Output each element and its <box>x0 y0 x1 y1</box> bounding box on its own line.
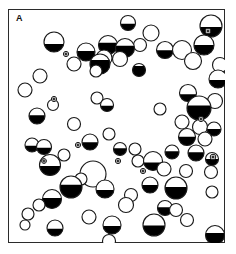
grain-circle <box>179 129 196 146</box>
crossed-circle-marker <box>51 96 56 101</box>
grain-circle <box>91 92 103 104</box>
grain-circle <box>158 201 173 216</box>
grain-circle <box>134 39 147 52</box>
grain-circle <box>175 115 189 129</box>
grain-circle <box>20 220 30 230</box>
grain-circle <box>44 32 64 52</box>
figure-panel-a: A <box>0 0 236 254</box>
crossed-circle-marker <box>205 28 211 34</box>
grain-circle <box>194 35 214 55</box>
grain-circle <box>68 118 81 131</box>
grain-circle <box>205 166 218 179</box>
grain-circle <box>82 210 96 224</box>
crossed-circles-layer <box>41 28 215 174</box>
grain-circle <box>121 16 136 31</box>
grain-circle <box>96 180 114 198</box>
grain-circle <box>209 70 225 88</box>
grain-circle <box>198 132 212 146</box>
grain-circle <box>173 41 192 60</box>
grain-circle <box>90 54 110 74</box>
grain-circle <box>157 42 174 59</box>
grain-circle <box>33 69 47 83</box>
grain-circle <box>154 103 166 115</box>
grain-circle <box>47 220 63 236</box>
grain-circle <box>125 189 138 202</box>
grain-circle <box>67 57 81 71</box>
grain-circle <box>96 50 112 66</box>
grain-circle <box>75 173 87 185</box>
grain-circle <box>132 155 144 167</box>
grain-circle <box>200 15 222 37</box>
grain-circle <box>103 216 121 234</box>
grain-circle <box>181 214 194 227</box>
grain-circle <box>206 186 218 198</box>
crossed-circle-marker <box>140 168 145 173</box>
grain-circle <box>185 53 202 70</box>
grain-circle <box>116 39 135 58</box>
grain-circle <box>40 155 61 176</box>
grain-circle <box>170 204 183 217</box>
grain-circle <box>144 152 163 171</box>
crossed-circle-marker <box>63 51 68 56</box>
grain-circle <box>25 138 39 152</box>
grain-circle <box>99 36 118 55</box>
grain-circle <box>60 176 82 198</box>
scatter-plot <box>8 9 225 243</box>
grain-circle <box>58 149 70 161</box>
crossed-circle-marker <box>41 158 46 163</box>
grain-circle <box>48 100 59 111</box>
grain-circle <box>142 177 158 193</box>
grain-circle <box>18 83 32 97</box>
grain-circle <box>103 235 116 244</box>
grain-circle <box>157 162 171 176</box>
grain-circle <box>206 226 225 244</box>
crossed-circle-marker <box>198 116 203 121</box>
grain-circle <box>208 94 223 109</box>
grain-circle <box>165 145 179 159</box>
grain-circle <box>82 134 98 150</box>
grain-circle <box>77 43 95 61</box>
panel-label: A <box>16 14 23 23</box>
grain-circle <box>187 96 211 120</box>
grain-circle <box>80 161 106 187</box>
plot-area <box>8 9 225 243</box>
grain-circle <box>114 143 127 156</box>
grain-circle <box>119 198 134 213</box>
grain-circle <box>143 214 165 236</box>
grain-circle <box>103 128 115 140</box>
grain-circle <box>129 143 141 155</box>
grain-circle <box>43 190 62 209</box>
grain-circle <box>143 25 159 41</box>
grain-circle <box>180 85 197 102</box>
crossed-circle-marker <box>210 154 216 160</box>
grain-circle <box>213 58 226 73</box>
grain-circle <box>90 65 102 77</box>
grain-circle <box>193 120 208 135</box>
grain-circle <box>37 140 52 155</box>
grain-circle <box>33 199 45 211</box>
grain-circle <box>207 122 221 136</box>
grain-circle <box>188 145 204 161</box>
grain-circle <box>133 64 146 77</box>
grain-circle <box>29 108 45 124</box>
crossed-circle-marker <box>75 142 80 147</box>
grain-circle <box>206 153 219 166</box>
grain-circle <box>101 99 114 112</box>
crossed-circle-marker <box>115 158 120 163</box>
grain-circle <box>180 165 193 178</box>
grain-circle <box>113 52 128 67</box>
grain-circle <box>165 177 187 199</box>
circles-layer <box>18 15 225 243</box>
grain-circle <box>22 208 34 220</box>
